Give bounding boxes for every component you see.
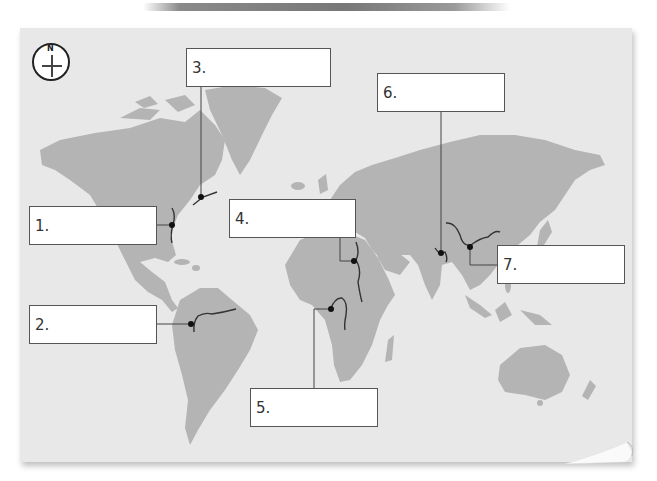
label-number: 5. xyxy=(256,399,270,417)
answer-input-3[interactable] xyxy=(215,53,326,82)
label-number: 3. xyxy=(192,59,206,77)
answer-input-1[interactable] xyxy=(58,211,152,240)
label-number: 2. xyxy=(35,316,49,334)
label-box-1[interactable]: 1. xyxy=(29,206,157,245)
answer-input-6[interactable] xyxy=(406,78,500,107)
answer-input-7[interactable] xyxy=(526,250,620,279)
compass-rose-icon: N xyxy=(32,43,70,81)
compass-north-label: N xyxy=(47,44,54,53)
label-number: 7. xyxy=(503,256,517,274)
label-box-2[interactable]: 2. xyxy=(29,305,157,344)
label-number: 1. xyxy=(35,217,49,235)
river-3-st-lawrence xyxy=(193,192,217,205)
label-box-4[interactable]: 4. xyxy=(229,199,356,238)
label-box-5[interactable]: 5. xyxy=(250,388,378,427)
label-box-6[interactable]: 6. xyxy=(377,73,505,112)
answer-input-4[interactable] xyxy=(258,204,351,233)
page-curl xyxy=(565,412,635,464)
answer-input-5[interactable] xyxy=(279,393,373,422)
south-america xyxy=(172,288,258,445)
label-box-3[interactable]: 3. xyxy=(186,48,331,87)
answer-input-2[interactable] xyxy=(58,310,152,339)
label-box-7[interactable]: 7. xyxy=(497,245,625,284)
australia xyxy=(498,345,570,400)
label-number: 6. xyxy=(383,84,397,102)
label-number: 4. xyxy=(235,210,249,228)
